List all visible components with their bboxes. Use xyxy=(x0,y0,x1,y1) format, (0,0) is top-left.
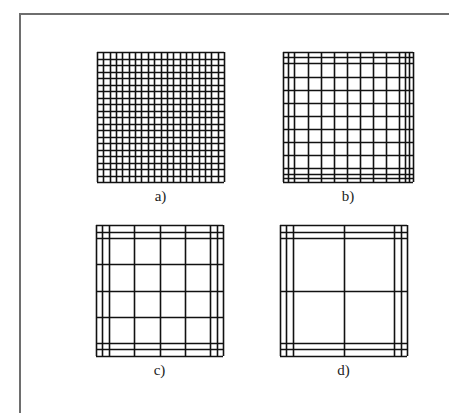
grid-panel-c xyxy=(96,225,223,356)
grid-panel-a xyxy=(97,52,224,182)
grid-panel-b xyxy=(283,52,413,182)
grid-a xyxy=(97,52,224,182)
grid-b xyxy=(283,52,413,182)
grid-c xyxy=(96,225,223,356)
grid-panel-d xyxy=(280,225,407,356)
caption-c: c) xyxy=(130,362,190,379)
caption-a: a) xyxy=(131,188,191,205)
caption-b: b) xyxy=(318,188,378,205)
caption-d: d) xyxy=(314,362,374,379)
grid-d xyxy=(280,225,407,356)
